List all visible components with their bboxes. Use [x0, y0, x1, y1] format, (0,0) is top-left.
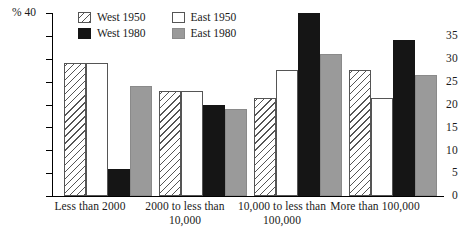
bar [86, 63, 108, 196]
bar [320, 54, 342, 196]
category-line-1: More than 100,000 [305, 200, 445, 214]
bar-group [159, 13, 247, 196]
bar [415, 75, 437, 196]
bar-group [254, 13, 342, 196]
bar [225, 109, 247, 196]
y-tick-label-40: 40 [24, 6, 36, 18]
bar [393, 40, 415, 196]
percent-symbol: % [12, 6, 22, 18]
x-category-label-3: More than 100,000 [305, 200, 445, 214]
bar [254, 98, 276, 196]
bar-group [349, 13, 437, 196]
bar [349, 70, 371, 196]
bar [159, 91, 181, 196]
bar [298, 13, 320, 196]
category-line-2: 100,000 [209, 214, 355, 228]
bar [108, 169, 130, 196]
bar-group [64, 13, 152, 196]
bar [203, 105, 225, 197]
bar [130, 86, 152, 196]
x-axis-line [52, 196, 444, 197]
bar [181, 91, 203, 196]
y-axis-unit-label: % 40 [12, 7, 36, 19]
bar [276, 70, 298, 196]
bar-chart: % 40 35 30 25 20 15 10 5 0 West 1950 Eas… [0, 0, 458, 241]
y-tick-0 [46, 196, 52, 197]
bar [371, 98, 393, 196]
plot-area [52, 13, 440, 196]
bar [64, 63, 86, 196]
